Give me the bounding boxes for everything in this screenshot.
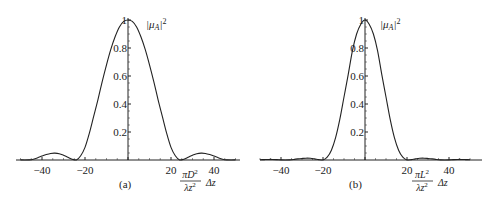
y-axis-label: |μA|2 (380, 17, 400, 32)
x-ticks: −40−202040 (21, 157, 236, 176)
x-label-numerator: πL2 (415, 168, 430, 180)
y-tick-label: 0.8 (113, 42, 127, 54)
x-tick-label: 40 (209, 164, 221, 176)
x-label-numerator: πD2 (182, 168, 198, 180)
x-label-denominator: λz2 (183, 181, 196, 193)
x-tick-label: −40 (33, 164, 51, 176)
x-axis-label: πL2λz2Δz (412, 168, 448, 193)
y-tick-label: 0.2 (113, 126, 127, 138)
x-label-tail: Δz (437, 177, 448, 188)
panel-label-b: (b) (349, 178, 362, 191)
y-tick-label: 0.2 (350, 126, 364, 138)
x-label-denominator: λz2 (415, 181, 428, 193)
panel-b: −40−202040 0.20.40.60.81 |μA|2 (b) πL2λz… (260, 14, 482, 193)
y-tick-label: 0.6 (350, 70, 364, 82)
x-tick-label: −40 (272, 164, 290, 176)
x-tick-label: 20 (166, 164, 178, 176)
y-tick-label: 0.6 (113, 70, 127, 82)
y-tick-label: 0.4 (113, 98, 127, 110)
panel-a: −40−202040 0.20.40.60.81 |μA|2 (a) πD2λz… (16, 14, 240, 193)
x-tick-label: −20 (76, 164, 94, 176)
x-tick-label: −20 (314, 164, 332, 176)
figure: −40−202040 0.20.40.60.81 |μA|2 (a) πD2λz… (0, 0, 497, 207)
x-tick-label: 40 (444, 164, 456, 176)
y-tick-label: 0.4 (350, 98, 364, 110)
x-label-tail: Δz (205, 177, 216, 188)
y-axis-label: |μA|2 (146, 17, 166, 32)
panel-label-a: (a) (119, 178, 132, 191)
x-tick-label: 20 (402, 164, 414, 176)
